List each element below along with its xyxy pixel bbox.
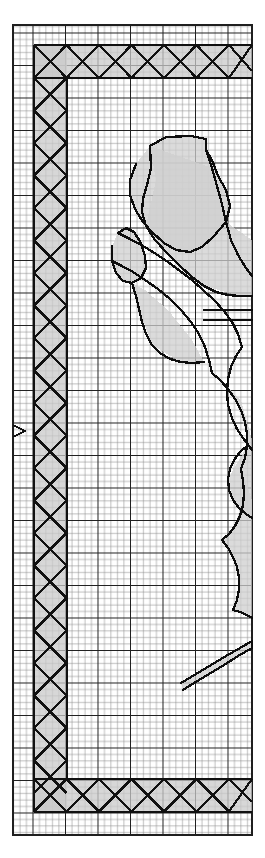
survey-sheet: Cadastral survey grid sheet — [0, 0, 265, 858]
plan-canvas[interactable] — [0, 0, 265, 858]
